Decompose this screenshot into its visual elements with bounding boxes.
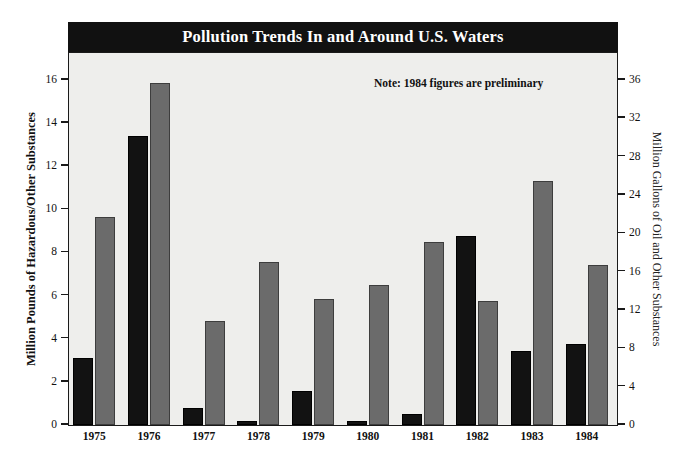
x-axis-tick-label: 1981 [411, 430, 434, 442]
y-axis-right-tick [617, 78, 625, 80]
y-axis-left-tick [61, 337, 69, 339]
bar-group [347, 53, 389, 425]
bar-group [237, 53, 279, 425]
y-axis-left-tick [61, 294, 69, 296]
y-axis-right-tick-label: 32 [629, 111, 641, 123]
x-axis-tick-label: 1979 [302, 430, 325, 442]
bar-oil-gallons [150, 83, 170, 425]
plot-frame: Note: 1984 figures are preliminary 02468… [68, 52, 618, 426]
y-axis-left-title: Million Pounds of Hazardous/Other Substa… [20, 52, 42, 426]
y-axis-right-tick [617, 308, 625, 310]
y-axis-right-tick [617, 385, 625, 387]
y-axis-left-tick-label: 16 [46, 73, 58, 85]
y-axis-right-tick [617, 347, 625, 349]
y-axis-left-tick [61, 423, 69, 425]
bar-group [292, 53, 334, 425]
y-axis-right-tick-label: 4 [629, 380, 635, 392]
bar-oil-gallons [314, 299, 334, 425]
y-axis-left-tick-label: 10 [46, 202, 58, 214]
y-axis-right-tick [617, 423, 625, 425]
x-axis-tick-label: 1980 [356, 430, 379, 442]
bar-oil-gallons [424, 242, 444, 425]
chart-note: Note: 1984 figures are preliminary [374, 77, 543, 89]
y-axis-right-tick [617, 232, 625, 234]
y-axis-right-tick-label: 8 [629, 341, 635, 353]
pollution-trends-chart: Pollution Trends In and Around U.S. Wate… [0, 0, 689, 468]
y-axis-right-tick-label: 20 [629, 226, 641, 238]
x-axis-tick-label: 1975 [83, 430, 106, 442]
bar-hazardous-substances [456, 236, 476, 425]
y-axis-left-tick-label: 12 [46, 159, 58, 171]
x-axis-tick-label: 1977 [192, 430, 215, 442]
x-axis-tick-label: 1984 [575, 430, 598, 442]
plot-area [69, 53, 617, 425]
y-axis-left-tick [61, 164, 69, 166]
x-axis-tick-label: 1978 [247, 430, 270, 442]
bar-oil-gallons [205, 321, 225, 425]
y-axis-right-tick-label: 16 [629, 265, 641, 277]
y-axis-right-tick-label: 28 [629, 150, 641, 162]
bar-oil-gallons [588, 265, 608, 425]
bar-group [511, 53, 553, 425]
bar-hazardous-substances [292, 391, 312, 426]
bar-oil-gallons [478, 301, 498, 425]
page-title: Pollution Trends In and Around U.S. Wate… [182, 27, 503, 47]
chart-title-bar: Pollution Trends In and Around U.S. Wate… [68, 22, 618, 52]
x-axis-labels: 1975197619771978197919801981198219831984 [68, 430, 618, 450]
y-axis-right-tick-label: 36 [629, 73, 641, 85]
y-axis-left-tick [61, 380, 69, 382]
y-axis-right-tick [617, 270, 625, 272]
y-axis-right-tick [617, 193, 625, 195]
y-axis-left-tick-label: 8 [51, 245, 57, 257]
bar-hazardous-substances [237, 421, 257, 425]
y-axis-left-tick-label: 4 [51, 332, 57, 344]
y-axis-left-tick-label: 2 [51, 375, 57, 387]
bar-oil-gallons [259, 262, 279, 425]
bar-group [73, 53, 115, 425]
bar-group [402, 53, 444, 425]
bar-hazardous-substances [73, 358, 93, 425]
y-axis-left-tick [61, 251, 69, 253]
bar-group [128, 53, 170, 425]
bar-oil-gallons [95, 217, 115, 425]
x-axis-tick-label: 1983 [520, 430, 543, 442]
bar-hazardous-substances [347, 421, 367, 425]
bar-hazardous-substances [566, 344, 586, 425]
y-axis-right-tick-label: 12 [629, 303, 641, 315]
bar-group [456, 53, 498, 425]
bar-hazardous-substances [402, 414, 422, 425]
y-axis-left-tick-label: 14 [46, 116, 58, 128]
bar-hazardous-substances [128, 136, 148, 425]
y-axis-right-title: Million Gallons of Oil and Other Substan… [646, 52, 668, 426]
bar-oil-gallons [369, 285, 389, 425]
y-axis-right-tick-label: 24 [629, 188, 641, 200]
y-axis-right-tick [617, 116, 625, 118]
y-axis-left-tick [61, 121, 69, 123]
x-axis-tick-label: 1982 [466, 430, 489, 442]
y-axis-right-tick-label: 0 [629, 418, 635, 430]
y-axis-right-tick [617, 155, 625, 157]
bar-group [566, 53, 608, 425]
y-axis-left-tick [61, 78, 69, 80]
bar-group [183, 53, 225, 425]
y-axis-left-tick-label: 0 [51, 418, 57, 430]
y-axis-left-tick [61, 208, 69, 210]
bar-hazardous-substances [511, 351, 531, 425]
bar-hazardous-substances [183, 408, 203, 425]
y-axis-left-tick-label: 6 [51, 289, 57, 301]
bar-oil-gallons [533, 181, 553, 425]
x-axis-tick-label: 1976 [138, 430, 161, 442]
